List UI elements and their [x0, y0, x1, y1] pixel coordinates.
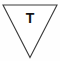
triangle-outline-shape — [3, 5, 57, 58]
triangle-down-icon — [0, 0, 60, 61]
icon-canvas: T — [0, 0, 60, 61]
